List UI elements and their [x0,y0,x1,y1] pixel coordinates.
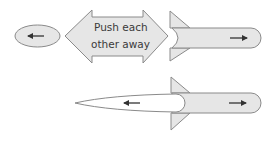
push-apart-callout: Push each other away [65,10,168,63]
rocket-top [170,11,261,61]
callout-line-2: other away [91,38,150,50]
ejected-mass [15,25,60,47]
rocket-propulsion-diagram: Push each other away [0,0,274,141]
exhaust-plume [75,94,185,112]
callout-line-1: Push each [94,21,148,33]
